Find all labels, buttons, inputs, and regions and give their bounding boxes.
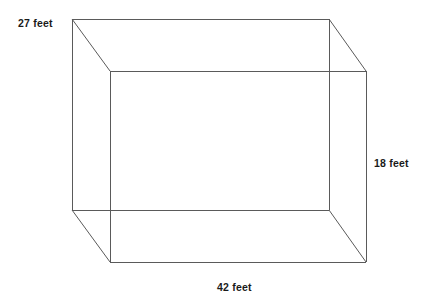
back-face-edges [72,19,329,210]
edge-depth-bottom-left [72,210,110,262]
front-face-edges [110,71,366,262]
prism-diagram: 27 feet 18 feet 42 feet [0,0,431,298]
rectangular-prism-wireframe [0,0,431,298]
edge-depth-top-right [329,19,366,71]
edge-depth-bottom-right [329,210,366,262]
height-dimension-label: 18 feet [374,157,409,169]
edge-depth-top-left [72,19,110,71]
depth-connector-edges [72,19,366,262]
depth-dimension-label: 27 feet [18,17,53,29]
width-dimension-label: 42 feet [217,281,252,293]
